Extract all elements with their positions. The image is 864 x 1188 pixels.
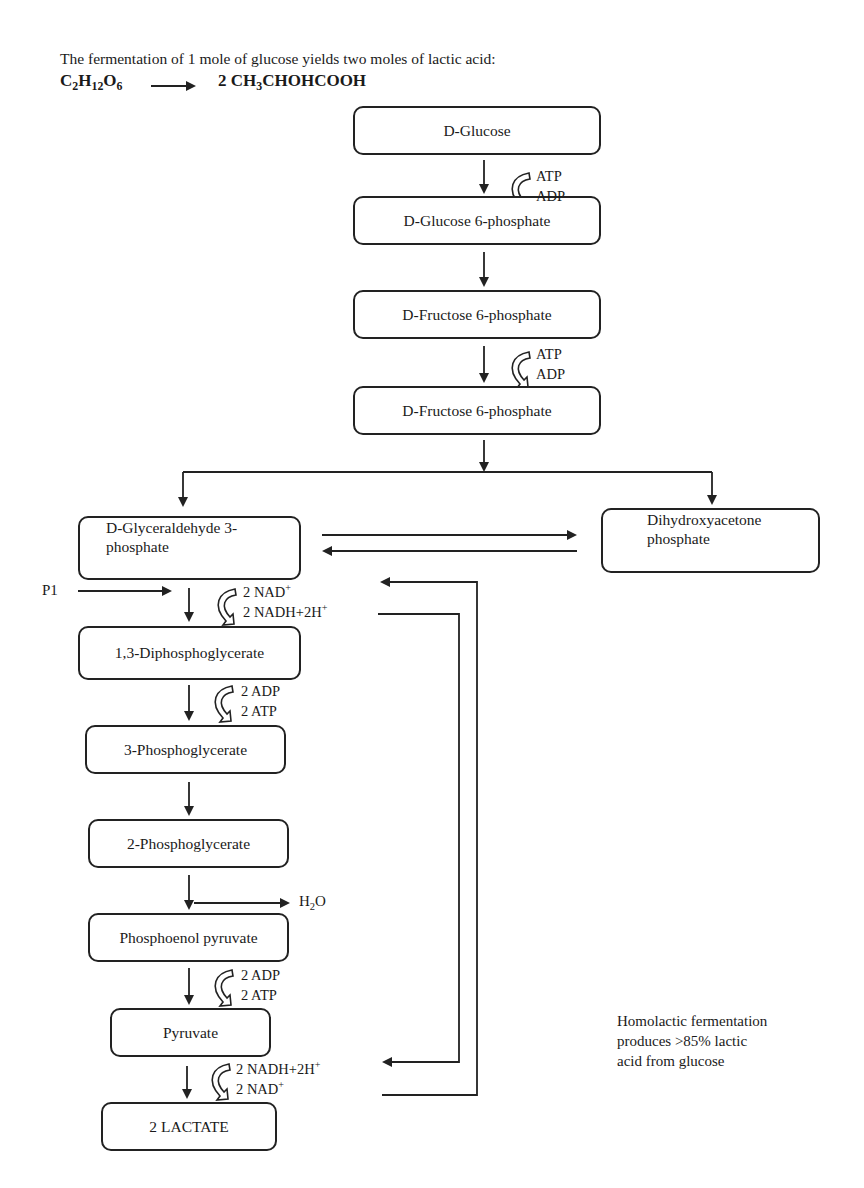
cofactor-adp-pep: 2 ADP [241, 967, 280, 984]
cofactor-adp-dpg: 2 ADP [241, 683, 280, 700]
cofactor-nadh-out: 2 NADH+2H+ [243, 604, 327, 621]
cofactor-adp-2: ADP [536, 366, 565, 383]
node-1-3-diphosphoglycerate: 1,3-Diphosphoglycerate [78, 626, 301, 680]
node-dihydroxyacetone-phosphate: Dihydroxyacetone phosphate [601, 508, 820, 573]
homolactic-note: Homolactic fermentation produces >85% la… [617, 1011, 767, 1071]
gap-line-2: phosphate [106, 537, 169, 556]
node-fructose-6-phosphate-2: D-Fructose 6-phosphate [353, 386, 601, 435]
gap-line-1: D-Glyceraldehyde 3- [106, 518, 237, 537]
node-lactate: 2 LACTATE [101, 1102, 277, 1151]
dhap-line-2: phosphate [647, 529, 710, 548]
cofactor-nadh-in: 2 NADH+2H+ [236, 1061, 320, 1078]
note-line-3: acid from glucose [617, 1051, 767, 1071]
note-line-2: produces >85% lactic [617, 1031, 767, 1051]
water-label: H2O [299, 893, 326, 910]
node-pyruvate: Pyruvate [110, 1008, 271, 1057]
cofactor-atp-dpg: 2 ATP [241, 703, 277, 720]
node-3-phosphoglycerate: 3-Phosphoglycerate [85, 725, 286, 774]
cofactor-atp-1: ATP [536, 168, 562, 185]
node-fructose-6-phosphate: D-Fructose 6-phosphate [353, 290, 601, 339]
note-line-1: Homolactic fermentation [617, 1011, 767, 1031]
cofactor-atp-pep: 2 ATP [241, 987, 277, 1004]
cofactor-nad-out: 2 NAD+ [236, 1081, 284, 1098]
cofactor-adp-1: ADP [536, 188, 565, 205]
pi-label: P1 [42, 582, 58, 599]
node-glyceraldehyde-3-phosphate: D-Glyceraldehyde 3- phosphate [78, 516, 301, 580]
cofactor-nad-in: 2 NAD+ [243, 584, 291, 601]
node-phosphoenol-pyruvate: Phosphoenol pyruvate [88, 913, 289, 962]
node-2-phosphoglycerate: 2-Phosphoglycerate [88, 819, 289, 868]
dhap-line-1: Dihydroxyacetone [647, 510, 762, 529]
node-d-glucose: D-Glucose [353, 106, 601, 155]
cofactor-atp-2: ATP [536, 346, 562, 363]
